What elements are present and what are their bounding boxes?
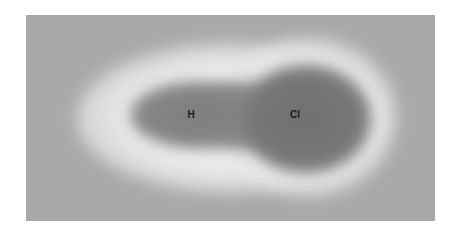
electron-density-panel: H Cl: [26, 15, 435, 221]
atom-label-cl: Cl: [290, 109, 300, 120]
atom-label-h: H: [187, 109, 194, 120]
chlorine-density-cloud: [241, 65, 371, 173]
